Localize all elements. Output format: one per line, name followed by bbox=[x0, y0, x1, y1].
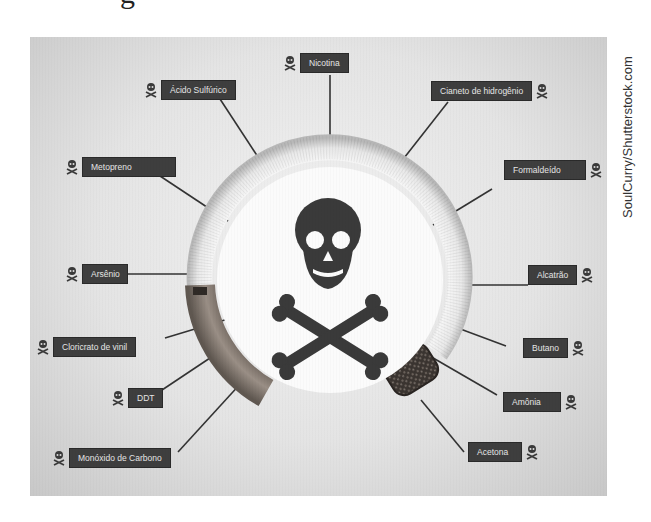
label-text: Monóxido de Carbono bbox=[69, 448, 171, 468]
label-text: Metopreno bbox=[82, 157, 176, 177]
label-acido-sulfurico: Ácido Sulfúrico bbox=[145, 81, 236, 99]
label-butano: Butano bbox=[523, 339, 584, 357]
label-text: Butano bbox=[523, 338, 568, 358]
watermark-text: SoulCurry/Shutterstock.com bbox=[620, 56, 635, 218]
label-text: Formaldeído bbox=[504, 160, 586, 180]
skull-crossbones-icon bbox=[581, 267, 593, 283]
label-amonia: Amônia bbox=[503, 393, 577, 411]
watermark: SoulCurry/Shutterstock.com bbox=[612, 22, 642, 252]
skull-crossbones-icon bbox=[66, 159, 78, 175]
label-text: Acetona bbox=[468, 442, 522, 462]
label-nicotina: Nicotina bbox=[284, 54, 349, 72]
skull-crossbones-icon bbox=[112, 390, 124, 406]
label-text: Cloricrato de vinil bbox=[53, 337, 136, 357]
skull-crossbones-icon bbox=[66, 266, 78, 282]
skull-crossbones-icon bbox=[572, 340, 584, 356]
label-cloricrato-de-vinil: Cloricrato de vinil bbox=[37, 338, 136, 356]
heading-fragment: g bbox=[120, 0, 135, 10]
skull-crossbones-icon bbox=[565, 394, 577, 410]
label-metopreno: Metopreno bbox=[66, 158, 176, 176]
label-acetona: Acetona bbox=[468, 443, 538, 461]
skull-crossbones-icon bbox=[590, 162, 602, 178]
label-text: Arsênio bbox=[82, 264, 128, 284]
label-monoxido-de-carbono: Monóxido de Carbono bbox=[53, 449, 171, 467]
skull-crossbones-icon bbox=[284, 55, 296, 71]
label-text: Ácido Sulfúrico bbox=[161, 80, 236, 100]
infographic-frame: Nicotina Ácido Sulfúrico Cianeto de hidr… bbox=[30, 37, 607, 496]
label-formaldeido: Formaldeído bbox=[504, 161, 602, 179]
label-text: Alcatrão bbox=[528, 265, 577, 285]
label-text: Nicotina bbox=[300, 53, 349, 73]
skull-crossbones-icon bbox=[536, 83, 548, 99]
skull-crossbones-icon bbox=[53, 450, 65, 466]
skull-crossbones-icon bbox=[526, 444, 538, 460]
label-arsenio: Arsênio bbox=[66, 265, 128, 283]
skull-crossbones-icon bbox=[145, 82, 157, 98]
skull-crossbones-icon bbox=[37, 339, 49, 355]
cropped-heading: g bbox=[0, 0, 651, 30]
label-cianeto-de-hidrogenio: Cianeto de hidrogênio bbox=[431, 82, 548, 100]
label-ddt: DDT bbox=[112, 389, 163, 407]
label-text: Cianeto de hidrogênio bbox=[431, 81, 532, 101]
label-text: Amônia bbox=[503, 392, 561, 412]
label-text: DDT bbox=[128, 388, 163, 408]
label-alcatrao: Alcatrão bbox=[528, 266, 593, 284]
